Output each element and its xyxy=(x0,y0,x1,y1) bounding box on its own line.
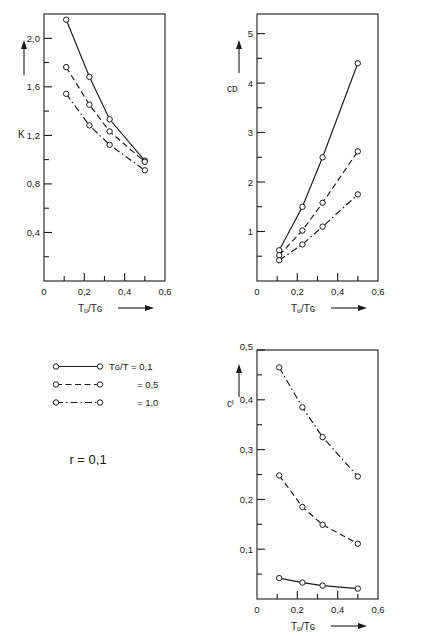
chart-ci-xlabel: Tᵤ/Tɢ xyxy=(291,621,315,632)
legend-entry-dashed: = 0,5 xyxy=(53,379,158,390)
chart-ci-plot-area: 0,5 0,4 0,3 0,2 0,1 0 0,2 0,4 0,6 cᴵ Tᵤ/… xyxy=(227,341,385,632)
chart-ci-yticklabel: 0,1 xyxy=(240,544,253,555)
chart-cd-x-axis-arrow xyxy=(331,305,367,311)
chart-ci-x-axis-arrow xyxy=(331,623,367,629)
chart-k-x-axis-arrow xyxy=(118,305,154,311)
chart-ci-svg: 0,5 0,4 0,3 0,2 0,1 0 0,2 0,4 0,6 cᴵ Tᵤ/… xyxy=(211,318,423,636)
chart-panel-cd: 5 4 3 2 1 0 0,2 0,4 0,6 cᴅ Tᵤ/Tɢ xyxy=(211,0,423,318)
chart-k-series-dashdot xyxy=(63,91,147,173)
chart-k-frame xyxy=(44,14,165,281)
chart-k-xticklabel: 0,6 xyxy=(158,286,171,297)
chart-cd-yticklabel: 4 xyxy=(248,78,253,89)
chart-k-x-ticks xyxy=(64,273,145,281)
chart-k-svg: 2,0 1,6 1,2 0,8 0,4 0 0,2 0,4 0,6 K Tᵤ/T… xyxy=(0,0,211,318)
chart-ci-x-ticks xyxy=(277,591,358,599)
chart-cd-frame xyxy=(257,14,378,281)
chart-ci-yticklabel: 0,3 xyxy=(240,444,253,455)
chart-panel-ci: 0,5 0,4 0,3 0,2 0,1 0 0,2 0,4 0,6 cᴵ Tᵤ/… xyxy=(211,318,423,636)
chart-k-xticklabel: 0,4 xyxy=(118,286,131,297)
figure-root: 2,0 1,6 1,2 0,8 0,4 0 0,2 0,4 0,6 K Tᵤ/T… xyxy=(0,0,423,636)
chart-cd-series-dashdot xyxy=(277,192,361,263)
chart-cd-xticklabel: 0,2 xyxy=(291,286,304,297)
chart-ci-series-solid xyxy=(277,575,361,591)
chart-cd-svg: 5 4 3 2 1 0 0,2 0,4 0,6 cᴅ Tᵤ/Tɢ xyxy=(211,0,423,318)
chart-k-yticklabel: 0,4 xyxy=(27,227,40,238)
chart-cd-xticklabel: 0,4 xyxy=(331,286,344,297)
chart-k-plot-area: 2,0 1,6 1,2 0,8 0,4 0 0,2 0,4 0,6 K Tᵤ/T… xyxy=(18,14,172,314)
legend-entry-solid: Tɢ/T = 0,1 xyxy=(53,361,152,372)
chart-cd-plot-area: 5 4 3 2 1 0 0,2 0,4 0,6 cᴅ Tᵤ/Tɢ xyxy=(227,14,385,314)
chart-ci-series-dashed xyxy=(277,473,361,547)
chart-cd-xticklabel: 0 xyxy=(254,286,259,297)
chart-k-y-ticks xyxy=(44,38,52,256)
chart-ci-xticklabel: 0 xyxy=(254,604,259,615)
chart-k-xticklabel: 0 xyxy=(41,286,46,297)
chart-cd-xlabel: Tᵤ/Tɢ xyxy=(291,303,315,314)
chart-ci-yticklabel: 0,2 xyxy=(240,494,253,505)
chart-ci-series-dashdot xyxy=(277,365,361,480)
chart-ci-xticklabel: 0,6 xyxy=(371,604,384,615)
chart-ci-yticklabel: 0,5 xyxy=(240,341,253,352)
legend-label-solid: Tɢ/T = 0,1 xyxy=(109,361,152,372)
legend-entry-dashdot: = 1,0 xyxy=(53,397,158,408)
chart-ci-ylabel: cᴵ xyxy=(227,398,234,409)
chart-panel-k: 2,0 1,6 1,2 0,8 0,4 0 0,2 0,4 0,6 K Tᵤ/T… xyxy=(0,0,211,318)
chart-k-yticklabel: 1,6 xyxy=(27,81,40,92)
chart-cd-yticklabel: 1 xyxy=(248,226,253,237)
chart-ci-xticklabel: 0,4 xyxy=(331,604,344,615)
chart-k-ylabel: K xyxy=(18,129,25,140)
legend-label-dashed: = 0,5 xyxy=(137,379,158,390)
chart-ci-y-ticks xyxy=(257,350,265,574)
chart-k-y-axis-arrow xyxy=(21,40,27,75)
legend-svg: Tɢ/T = 0,1 = 0,5 = 1,0 r = 0,1 xyxy=(0,318,211,636)
chart-ci-y-axis-arrow xyxy=(236,364,242,397)
legend-label-dashdot: = 1,0 xyxy=(137,397,158,408)
legend-panel: Tɢ/T = 0,1 = 0,5 = 1,0 r = 0,1 xyxy=(0,318,211,636)
chart-cd-yticklabel: 2 xyxy=(248,177,253,188)
chart-cd-series-solid xyxy=(277,61,361,253)
parameter-annotation: r = 0,1 xyxy=(69,452,106,467)
chart-cd-xticklabel: 0,6 xyxy=(371,286,384,297)
chart-cd-yticklabel: 5 xyxy=(248,28,253,39)
chart-cd-x-ticks xyxy=(277,273,358,281)
chart-k-yticklabel: 2,0 xyxy=(27,33,40,44)
chart-cd-yticklabel: 3 xyxy=(248,127,253,138)
chart-cd-y-ticks xyxy=(257,34,265,257)
chart-k-yticklabel: 0,8 xyxy=(27,178,40,189)
chart-ci-yticklabel: 0,4 xyxy=(240,394,253,405)
chart-cd-y-axis-arrow xyxy=(236,40,242,73)
chart-cd-ylabel: cᴅ xyxy=(227,83,238,94)
chart-ci-xticklabel: 0,2 xyxy=(291,604,304,615)
chart-k-yticklabel: 1,2 xyxy=(27,130,40,141)
chart-k-xticklabel: 0,2 xyxy=(78,286,91,297)
chart-k-xlabel: Tᵤ/Tɢ xyxy=(78,303,102,314)
